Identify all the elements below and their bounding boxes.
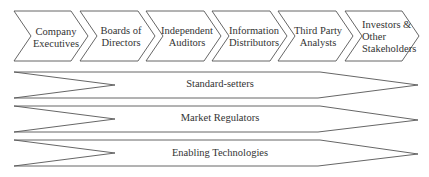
stage-label-boards-of-directors: Boards of Directors (92, 25, 150, 49)
stage-label-information-distributors: Information Distributors (224, 25, 284, 49)
stage-label-investors-other-stakeholders: Investors & Other Stakeholders (362, 19, 422, 55)
stage-label-independent-auditors: Independent Auditors (158, 25, 216, 49)
bar-label-enabling-technologies: Enabling Technologies (145, 147, 295, 158)
stage-label-third-party-analysts: Third Party Analysts (289, 25, 347, 49)
supply-chain-diagram: Company Executives Boards of Directors I… (0, 0, 429, 177)
bar-label-market-regulators: Market Regulators (150, 112, 290, 123)
bar-label-standard-setters: Standard-setters (150, 78, 290, 89)
stage-label-company-executives: Company Executives (28, 26, 84, 50)
